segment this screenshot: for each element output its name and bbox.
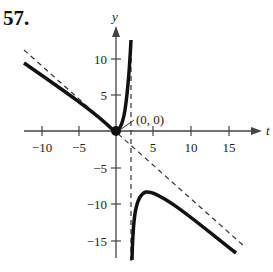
origin-point	[111, 126, 121, 136]
right-branch	[132, 192, 236, 260]
y-tick-label: 10	[94, 52, 107, 67]
x-tick-label: 10	[185, 140, 198, 155]
y-tick-label: −10	[87, 197, 107, 212]
t-label: t	[266, 123, 270, 138]
y-tick-label: −15	[87, 234, 107, 249]
left-branch	[24, 40, 131, 131]
graph: t y −10 −5 5 10 15 10 5 −5 −10 −15 (0, 0…	[0, 0, 273, 272]
t-axis-arrow-icon	[251, 127, 262, 135]
y-tick-label: −5	[93, 161, 107, 176]
point-annotation: (0, 0)	[136, 112, 164, 127]
y-label: y	[110, 9, 118, 24]
x-tick-label: −5	[72, 140, 86, 155]
y-tick-label: 5	[101, 88, 108, 103]
x-tick-label: −10	[32, 140, 52, 155]
x-tick-label: 5	[150, 140, 157, 155]
x-tick-label: 15	[223, 140, 236, 155]
y-axis-arrow-icon	[112, 26, 120, 37]
